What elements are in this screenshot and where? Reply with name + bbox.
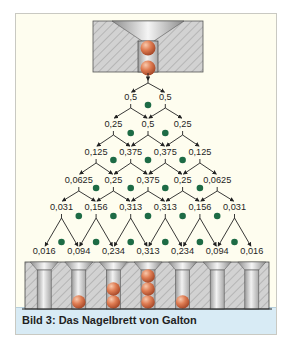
pin bbox=[110, 157, 117, 164]
arrow-right bbox=[183, 135, 199, 146]
probability-label: 0,156 bbox=[85, 202, 108, 212]
probability-label: 0,094 bbox=[206, 246, 229, 256]
pin bbox=[214, 213, 221, 220]
arrow-right bbox=[217, 191, 233, 201]
ball bbox=[141, 41, 156, 56]
pin bbox=[76, 213, 83, 220]
ball bbox=[107, 295, 121, 309]
pin bbox=[127, 130, 134, 137]
pin bbox=[162, 130, 169, 137]
pin bbox=[110, 213, 117, 220]
probability-label: 0,031 bbox=[223, 202, 246, 212]
probability-label: 0,0625 bbox=[65, 175, 93, 185]
pin bbox=[145, 102, 152, 109]
arrow-left bbox=[114, 108, 130, 118]
pin bbox=[127, 185, 134, 192]
arrow-left bbox=[63, 191, 79, 201]
arrow-right bbox=[148, 135, 164, 146]
ball bbox=[141, 269, 155, 283]
arrow-left bbox=[184, 163, 200, 174]
arrow-left bbox=[201, 191, 217, 201]
galton-board-diagram: 0,50,50,250,50,250,1250,3750,3750,1250,0… bbox=[0, 0, 290, 345]
probability-label: 0,375 bbox=[154, 147, 177, 157]
arrow-left bbox=[97, 191, 113, 201]
arrow-left bbox=[114, 163, 130, 174]
arrow-right bbox=[113, 191, 129, 201]
probability-label: 0,016 bbox=[33, 246, 56, 256]
probability-label: 0,156 bbox=[188, 202, 211, 212]
arrow-right bbox=[183, 191, 199, 201]
arrow-right bbox=[148, 191, 164, 201]
pin bbox=[93, 185, 100, 192]
arrow-right bbox=[148, 83, 164, 92]
probability-label: 0,25 bbox=[104, 119, 122, 129]
pin bbox=[127, 239, 134, 246]
probability-label: 0,313 bbox=[119, 202, 142, 212]
pin bbox=[58, 239, 65, 246]
pin bbox=[231, 239, 238, 246]
arrow-left bbox=[166, 191, 182, 201]
probability-label: 0,375 bbox=[119, 147, 142, 157]
pin bbox=[162, 239, 169, 246]
probability-label: 0,5 bbox=[124, 92, 137, 102]
ball bbox=[141, 282, 155, 296]
bin-channel bbox=[210, 270, 224, 309]
arrow-right bbox=[165, 108, 181, 118]
arrow-right bbox=[96, 163, 112, 174]
bin-channel bbox=[37, 270, 51, 309]
ball bbox=[176, 295, 190, 309]
probability-label: 0,0625 bbox=[203, 175, 231, 185]
pin bbox=[93, 239, 100, 246]
probability-label: 0,25 bbox=[104, 175, 122, 185]
ball bbox=[72, 295, 86, 309]
bin-channel bbox=[245, 270, 259, 309]
pin bbox=[162, 185, 169, 192]
probability-tree: 0,50,50,250,50,250,1250,3750,3750,1250,0… bbox=[33, 80, 264, 256]
arrow-left bbox=[80, 163, 96, 174]
funnel-block bbox=[93, 21, 203, 80]
probability-label: 0,25 bbox=[174, 175, 192, 185]
probability-label: 0,25 bbox=[174, 119, 192, 129]
arrow-right bbox=[131, 108, 147, 118]
probability-label: 0,313 bbox=[137, 246, 160, 256]
probability-label: 0,125 bbox=[85, 147, 108, 157]
probability-label: 0,094 bbox=[67, 246, 90, 256]
ball bbox=[141, 295, 155, 309]
collection-bins bbox=[22, 262, 272, 309]
arrow-left bbox=[132, 83, 148, 92]
arrow-left bbox=[149, 108, 165, 118]
probability-label: 0,234 bbox=[102, 246, 125, 256]
arrow-right bbox=[113, 135, 129, 146]
probability-label: 0,031 bbox=[50, 202, 73, 212]
arrow-left bbox=[149, 163, 165, 174]
arrow-right bbox=[165, 163, 181, 174]
arrow-left bbox=[166, 135, 182, 146]
probability-label: 0,016 bbox=[240, 246, 263, 256]
pin bbox=[197, 185, 204, 192]
pin bbox=[179, 213, 186, 220]
probability-label: 0,234 bbox=[171, 246, 194, 256]
arrow-right bbox=[131, 163, 147, 174]
probability-label: 0,125 bbox=[188, 147, 211, 157]
arrow-left bbox=[132, 191, 148, 201]
probability-label: 0,313 bbox=[154, 202, 177, 212]
pin bbox=[145, 157, 152, 164]
pin bbox=[179, 157, 186, 164]
pin bbox=[145, 213, 152, 220]
arrow-right bbox=[200, 163, 216, 174]
probability-label: 0,5 bbox=[159, 92, 172, 102]
probability-label: 0,375 bbox=[137, 175, 160, 185]
arrow-left bbox=[132, 135, 148, 146]
ball bbox=[107, 282, 121, 296]
probability-label: 0,5 bbox=[142, 119, 155, 129]
arrow-right bbox=[79, 191, 95, 201]
pin bbox=[197, 239, 204, 246]
arrow-left bbox=[97, 135, 113, 146]
